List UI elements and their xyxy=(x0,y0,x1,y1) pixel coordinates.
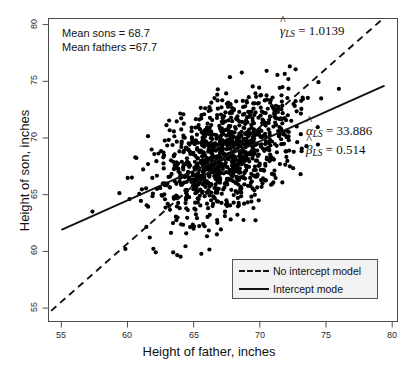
beta-subscript: LS xyxy=(312,148,322,158)
x-tick-label: 55 xyxy=(49,330,73,340)
x-axis-title: Height of father, inches xyxy=(0,344,418,359)
gamma-value-text: = 1.0139 xyxy=(298,23,344,38)
x-tick-label: 70 xyxy=(248,330,272,340)
x-tick-label: 80 xyxy=(380,330,404,340)
y-axis-title: Height of son, inches xyxy=(17,71,32,271)
mean-fathers-text: Mean fathers =67.7 xyxy=(62,40,157,54)
legend-label: No intercept model xyxy=(273,265,361,277)
x-tick-label: 65 xyxy=(182,330,206,340)
hat-accent-icon: ^ xyxy=(306,114,313,126)
plot-area xyxy=(0,0,418,367)
solid-line-key-icon xyxy=(233,280,273,298)
hat-accent-icon: ^ xyxy=(306,133,312,145)
alpha-value-text: = 33.886 xyxy=(326,123,372,138)
gamma-estimate-annotation: ^γLS = 1.0139 xyxy=(280,23,345,39)
dashed-line-key-icon xyxy=(233,262,273,280)
alpha-estimate-annotation: ^αLS = 33.886 xyxy=(306,123,372,139)
y-tick-label: 55 xyxy=(29,295,39,319)
x-tick-label: 75 xyxy=(314,330,338,340)
chart-legend: No intercept model Intercept mode xyxy=(232,259,378,299)
gamma-symbol: ^γ xyxy=(280,23,285,39)
x-tick-label: 60 xyxy=(115,330,139,340)
y-axis-ticks xyxy=(43,25,49,309)
beta-estimate-annotation: ^βLS = 0.514 xyxy=(306,142,365,158)
legend-item-intercept: Intercept mode xyxy=(233,280,379,298)
legend-item-no-intercept: No intercept model xyxy=(233,262,379,280)
gamma-subscript: LS xyxy=(285,29,295,39)
beta-symbol: ^β xyxy=(306,142,312,158)
mean-annotation: Mean sons = 68.7 Mean fathers =67.7 xyxy=(62,26,157,54)
x-axis-ticks xyxy=(61,322,392,328)
beta-value-text: = 0.514 xyxy=(326,142,366,157)
scatter-chart-figure: 55 60 65 70 75 80 55 60 65 70 75 80 Heig… xyxy=(0,0,418,367)
mean-sons-text: Mean sons = 68.7 xyxy=(62,26,157,40)
y-tick-label: 80 xyxy=(29,12,39,36)
hat-accent-icon: ^ xyxy=(280,14,285,26)
legend-label: Intercept mode xyxy=(273,283,343,295)
alpha-subscript: LS xyxy=(313,129,323,139)
